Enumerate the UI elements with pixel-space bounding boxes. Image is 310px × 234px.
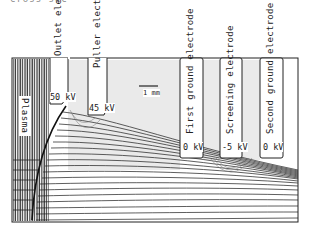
field-hatch-region — [68, 60, 180, 170]
simulation-diagram — [0, 0, 310, 234]
screening-electrode-voltage: -5 kV — [222, 142, 248, 152]
puller-electrode-label: Puller electrode — [92, 0, 102, 68]
second-ground-electrode-voltage: 0 kV — [263, 142, 283, 152]
outlet-electrode-voltage: 50 kV — [50, 92, 76, 102]
scale-bar-label: 1 mm — [143, 89, 160, 97]
first-ground-electrode-label: First ground electrode — [185, 8, 195, 134]
second-ground-electrode-label: Second ground electrode — [265, 2, 275, 134]
outlet-electrode-label: Outlet electrode — [53, 0, 63, 56]
puller-electrode-voltage: 45 kV — [89, 103, 115, 113]
first-ground-electrode-voltage: 0 kV — [183, 142, 203, 152]
screening-electrode-label: Screening electrode — [225, 25, 235, 134]
plasma-region — [13, 59, 49, 221]
plasma-label: Plasma — [19, 96, 31, 136]
